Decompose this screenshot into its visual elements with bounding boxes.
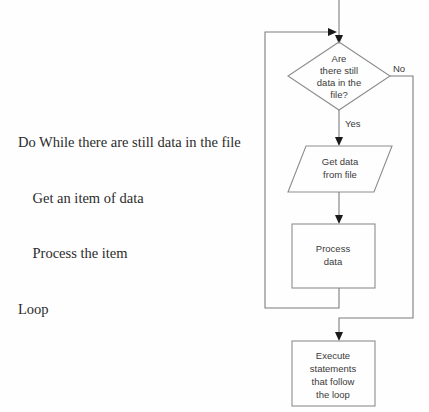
input-output-label-line: Get data [322,156,359,167]
decision-label-line: data in the [317,77,361,88]
terminal-label-line: the loop [316,389,350,400]
decision-label-line: there still [320,65,358,76]
flowchart-page: Do While there are still data in the fil… [0,0,429,412]
input-output-label-line: from file [323,169,357,180]
terminal-label-line: statements [310,363,357,374]
yes-branch-connector [335,110,343,146]
no-branch-label: No [393,63,405,74]
no-branch-connector [335,76,413,341]
process-label-line: Process [316,243,351,254]
decision-node: Are there still data in the file? [288,42,390,110]
terminal-label-line: Execute [316,350,350,361]
terminal-label-line: that follow [312,376,355,387]
flowchart-diagram: Are there still data in the file? No Yes… [0,0,429,412]
entry-connector [335,0,343,44]
io-to-process-connector [335,192,343,224]
decision-label-line: Are [332,53,347,64]
input-output-node: Get data from file [288,146,392,192]
decision-label-line: file? [330,89,347,100]
process-label-line: data [324,256,343,267]
process-node: Process data [292,224,375,288]
terminal-node: Execute statements that follow the loop [292,341,375,406]
yes-branch-label: Yes [345,118,361,129]
